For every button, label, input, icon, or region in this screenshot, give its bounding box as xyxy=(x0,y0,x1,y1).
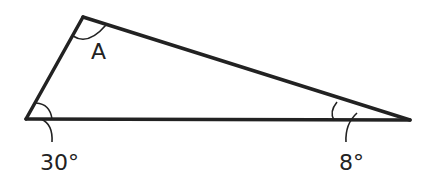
leader-8 xyxy=(346,113,357,142)
leader-30 xyxy=(41,119,52,142)
side-left xyxy=(26,17,83,119)
label-angle-a: A xyxy=(91,39,106,64)
triangle-diagram: A 30° 8° xyxy=(0,0,443,196)
angle-arc-8 xyxy=(332,102,337,120)
label-angle-8: 8° xyxy=(339,150,364,175)
angle-arc-30 xyxy=(36,103,52,119)
label-angle-30: 30° xyxy=(40,150,79,175)
side-top xyxy=(83,17,410,120)
